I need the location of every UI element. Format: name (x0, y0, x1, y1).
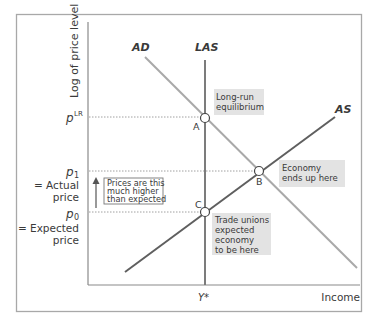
trade-unions-annotation: Trade unions expected economy to be here (212, 213, 271, 255)
ad-label: AD (131, 41, 150, 54)
svg-text:equilibrium: equilibrium (216, 102, 264, 112)
svg-text:Long-run: Long-run (216, 92, 254, 102)
svg-text:= Actual: = Actual (34, 179, 79, 191)
svg-text:price: price (53, 191, 79, 203)
svg-text:ends up here: ends up here (282, 173, 338, 183)
y-axis-label: Log of price level (68, 4, 81, 98)
svg-text:p: p (65, 165, 74, 179)
svg-text:expected: expected (215, 225, 254, 235)
point-c-marker (201, 208, 210, 217)
svg-text:p: p (65, 111, 74, 125)
svg-text:LR: LR (74, 110, 83, 118)
point-b-label: B (256, 176, 263, 187)
svg-text:economy: economy (215, 235, 254, 245)
svg-text:price: price (53, 234, 79, 246)
svg-text:p: p (65, 207, 74, 221)
point-b-marker (255, 167, 264, 176)
ad-as-diagram: Log of price level p LR p 1 = Actual pri… (0, 0, 383, 326)
x-tick-ystar: Y* (198, 292, 209, 303)
svg-text:0: 0 (74, 213, 79, 222)
point-a-marker (201, 114, 210, 123)
economy-ends-annotation: Economy ends up here (279, 160, 345, 187)
x-axis-label: Income (321, 291, 360, 303)
svg-text:to be here: to be here (215, 245, 259, 255)
svg-text:Economy: Economy (282, 163, 321, 173)
svg-text:than expected: than expected (107, 194, 166, 204)
svg-text:Trade unions: Trade unions (214, 215, 270, 225)
svg-text:= Expected: = Expected (18, 222, 79, 234)
point-c-label: C (195, 199, 202, 210)
point-a-label: A (193, 121, 200, 132)
long-run-annotation: Long-run equilibrium (214, 89, 264, 115)
as-label: AS (334, 103, 352, 116)
las-label: LAS (195, 41, 219, 54)
